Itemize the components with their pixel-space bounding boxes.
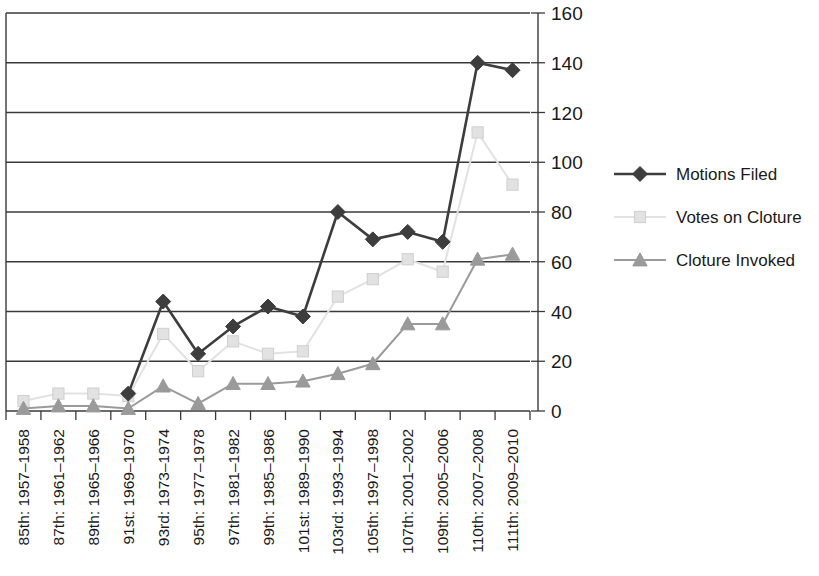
y-tick-labels: 020406080100120140160 — [551, 3, 583, 422]
x-tick-label: 111th: 2009–2010 — [504, 429, 521, 552]
data-point-diamond — [470, 55, 485, 70]
series-motions-filed — [121, 55, 520, 401]
legend-item-votes-on-cloture: Votes on Cloture — [614, 208, 802, 227]
y-tick-label: 60 — [551, 252, 572, 273]
x-tick-label: 109th: 2005–2006 — [434, 429, 451, 554]
series-votes-on-cloture — [18, 127, 518, 407]
x-tick-label: 107th: 2001–2002 — [399, 429, 416, 554]
data-point-square — [472, 127, 483, 138]
data-point-triangle — [191, 396, 205, 409]
data-point-square — [634, 211, 645, 222]
x-tick-label: 89th: 1965–1966 — [85, 429, 102, 545]
cloture-statistics-line-chart: 020406080100120140160 85th: 1957–195887t… — [0, 0, 819, 576]
y-tick-label: 40 — [551, 302, 572, 323]
data-point-square — [332, 291, 343, 302]
data-point-square — [437, 266, 448, 277]
data-point-square — [158, 328, 169, 339]
y-tick-label: 0 — [551, 401, 562, 422]
x-tick-labels: 85th: 1957–195887th: 1961–196289th: 1965… — [15, 429, 521, 555]
x-tick-label: 87th: 1961–1962 — [50, 429, 67, 545]
x-tick-label: 99th: 1985–1986 — [260, 429, 277, 545]
legend-item-label: Votes on Cloture — [676, 208, 802, 227]
legend-item-label: Cloture Invoked — [676, 251, 795, 270]
legend-item-label: Motions Filed — [676, 165, 777, 184]
chart-legend: Motions FiledVotes on ClotureCloture Inv… — [614, 165, 802, 270]
x-tick-label: 110th: 2007–2008 — [469, 429, 486, 553]
x-tick-label: 101st: 1989–1990 — [295, 429, 312, 553]
y-tick-label: 160 — [551, 3, 583, 24]
y-axis — [531, 13, 545, 411]
data-point-square — [297, 346, 308, 357]
data-point-square — [507, 179, 518, 190]
data-point-square — [367, 274, 378, 285]
y-tick-label: 140 — [551, 53, 583, 74]
data-series-group — [16, 55, 520, 414]
x-axis-ticks — [6, 411, 530, 420]
x-tick-label: 85th: 1957–1958 — [15, 429, 32, 545]
data-point-square — [88, 388, 99, 399]
data-point-square — [53, 388, 64, 399]
data-point-diamond — [400, 224, 415, 239]
data-point-square — [262, 348, 273, 359]
data-point-triangle — [505, 247, 519, 260]
data-point-diamond — [633, 167, 648, 182]
legend-item-motions-filed: Motions Filed — [614, 165, 777, 184]
data-point-triangle — [156, 379, 170, 392]
data-point-square — [227, 336, 238, 347]
x-tick-label: 95th: 1977–1978 — [190, 429, 207, 545]
y-tick-label: 80 — [551, 202, 572, 223]
y-tick-label: 100 — [551, 152, 583, 173]
data-point-diamond — [505, 63, 520, 78]
y-tick-label: 120 — [551, 103, 583, 124]
chart-canvas: 020406080100120140160 85th: 1957–195887t… — [0, 0, 819, 576]
data-point-diamond — [156, 294, 171, 309]
x-tick-label: 103rd: 1993–1994 — [329, 429, 346, 555]
x-tick-label: 91st: 1969–1970 — [120, 429, 137, 545]
x-tick-label: 105th: 1997–1998 — [364, 429, 381, 554]
y-tick-label: 20 — [551, 351, 572, 372]
legend-item-cloture-invoked: Cloture Invoked — [614, 251, 795, 270]
data-point-square — [193, 366, 204, 377]
data-point-square — [402, 254, 413, 265]
x-tick-label: 97th: 1981–1982 — [225, 429, 242, 545]
x-tick-label: 93rd: 1973–1974 — [155, 429, 172, 547]
